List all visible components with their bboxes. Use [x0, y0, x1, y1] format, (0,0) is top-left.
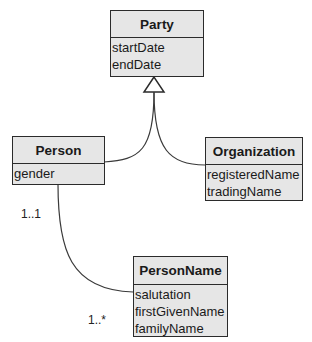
- attribute: firstGivenName: [135, 303, 227, 320]
- attribute: tradingName: [207, 183, 302, 200]
- class-personname-attributes: salutation firstGivenName familyName: [134, 285, 227, 337]
- class-party[interactable]: Party startDate endDate: [110, 10, 204, 77]
- class-organization-name: Organization: [206, 138, 302, 165]
- class-organization[interactable]: Organization registeredName tradingName: [205, 137, 303, 201]
- class-organization-attributes: registeredName tradingName: [206, 165, 302, 200]
- class-party-name: Party: [111, 11, 203, 38]
- generalization-arrowhead-icon: [144, 77, 164, 92]
- attribute: startDate: [112, 39, 203, 56]
- class-person[interactable]: Person gender: [12, 136, 105, 185]
- attribute: registeredName: [207, 166, 302, 183]
- attribute: endDate: [112, 56, 203, 73]
- class-person-name: Person: [13, 137, 104, 164]
- generalization-line-organization: [154, 92, 205, 165]
- generalization-line-person: [104, 92, 154, 162]
- multiplicity-personname: 1..*: [88, 313, 106, 327]
- class-personname-name: PersonName: [134, 257, 227, 285]
- attribute: gender: [14, 165, 104, 182]
- attribute: familyName: [135, 320, 227, 337]
- multiplicity-person: 1..1: [21, 207, 41, 221]
- class-personname[interactable]: PersonName salutation firstGivenName fam…: [133, 256, 228, 337]
- class-person-attributes: gender: [13, 164, 104, 182]
- class-party-attributes: startDate endDate: [111, 38, 203, 73]
- attribute: salutation: [135, 286, 227, 303]
- association-line: [58, 184, 133, 292]
